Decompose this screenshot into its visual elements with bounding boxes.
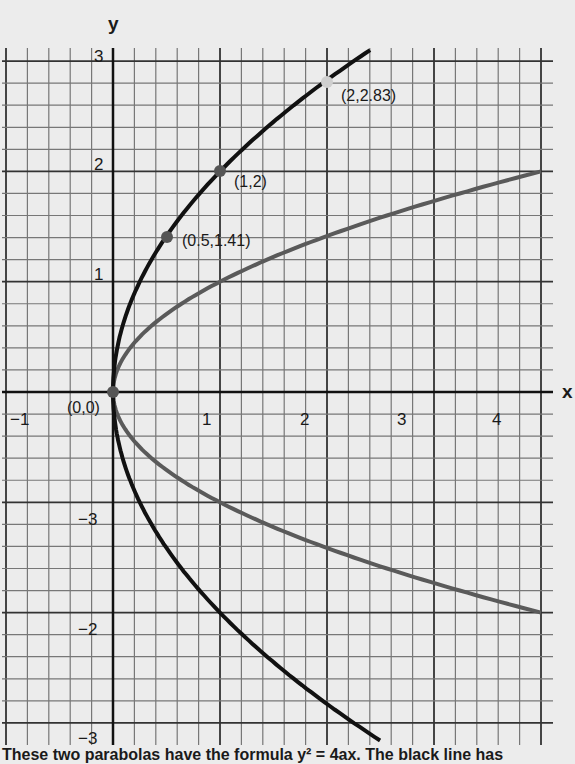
y-tick-1: 1	[94, 265, 103, 284]
y-tick-2: 2	[94, 155, 103, 174]
x-tick-1: 1	[202, 410, 211, 429]
x-tick-2: 2	[300, 410, 309, 429]
y-tick-m2: −2	[78, 620, 97, 639]
p1-label: (0.5,1.41)	[182, 232, 250, 249]
origin-point	[107, 386, 119, 398]
black-parabola	[113, 50, 380, 740]
x-tick-3: 3	[397, 410, 406, 429]
point-2-2.83	[321, 76, 333, 88]
point-0.5-1.41	[161, 231, 173, 243]
y-tick-3: 3	[94, 47, 103, 66]
x-tick-m1: −1	[10, 410, 29, 429]
p2-label: (1,2)	[234, 173, 267, 190]
x-tick-4: 4	[492, 410, 501, 429]
point-1-2	[214, 165, 226, 177]
axes	[2, 48, 553, 745]
parabola-chart: (0,0) (0.5,1.41) (1,2) (2,2.83) −1 1 2 3…	[0, 0, 575, 764]
caption: These two parabolas have the formula y² …	[2, 746, 503, 764]
p3-label: (2,2.83)	[341, 87, 396, 104]
x-axis-label: x	[562, 381, 573, 402]
tick-labels: −1 1 2 3 4 3 2 1 −3 −2 −3	[10, 47, 501, 748]
origin-label: (0,0)	[67, 399, 100, 416]
y-axis-label: y	[108, 13, 119, 34]
y-tick-m1: −3	[78, 510, 97, 529]
grid	[2, 48, 553, 745]
